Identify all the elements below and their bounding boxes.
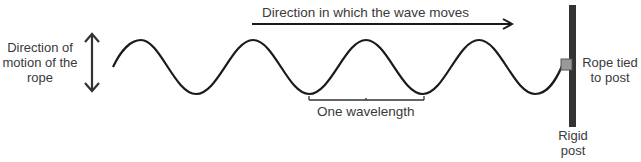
label-line: Rope tied xyxy=(580,55,640,70)
rope-tied-label: Rope tied to post xyxy=(580,55,640,85)
rigid-post-label: Rigid post xyxy=(553,128,593,158)
wave-direction-label: Direction in which the wave moves xyxy=(262,5,469,20)
motion-direction-label: Direction of motion of the rope xyxy=(2,40,78,85)
label-line: rope xyxy=(2,70,78,85)
wavelength-bracket xyxy=(309,96,424,100)
wavelength-label: One wavelength xyxy=(317,104,415,119)
wave-curve xyxy=(113,40,562,94)
wave-diagram xyxy=(0,0,641,162)
right-arrow-icon xyxy=(252,19,512,29)
label-line: post xyxy=(553,143,593,158)
label-line: Rigid xyxy=(553,128,593,143)
label-line: Direction of xyxy=(2,40,78,55)
up-down-arrow-icon xyxy=(85,34,99,91)
label-line: motion of the xyxy=(2,55,78,70)
knot-square xyxy=(561,59,572,70)
label-line: to post xyxy=(580,70,640,85)
